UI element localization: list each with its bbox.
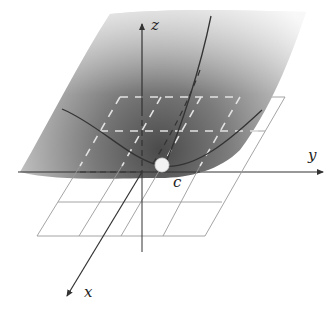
y-axis-label: y <box>308 148 316 163</box>
x-axis <box>67 172 142 296</box>
point-c-label: c <box>173 175 181 190</box>
surface-tangent-plane-diagram: z y x c <box>0 0 333 316</box>
z-axis-label: z <box>151 18 159 33</box>
x-axis-label: x <box>84 285 92 300</box>
diagram-canvas <box>0 0 333 316</box>
point-c <box>155 158 169 172</box>
